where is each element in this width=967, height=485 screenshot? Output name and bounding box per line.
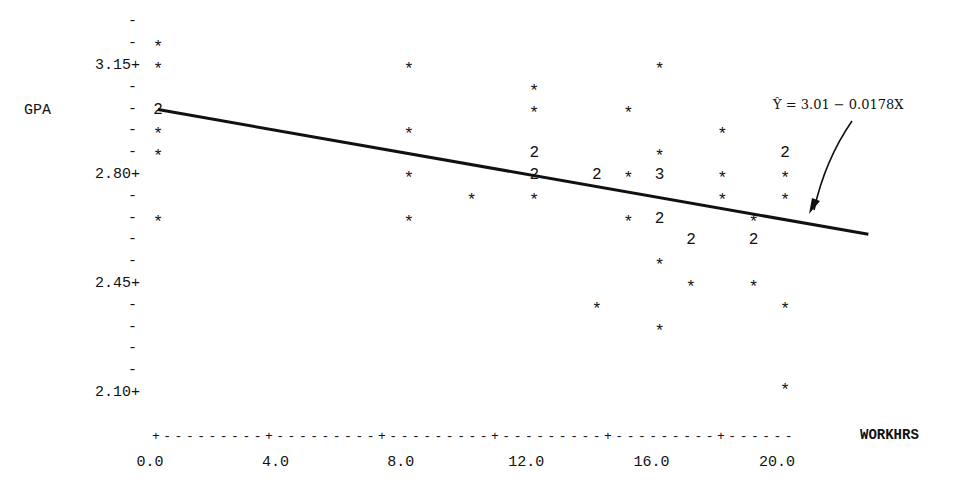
data-point: * <box>654 61 664 78</box>
data-point: * <box>153 148 163 165</box>
data-point-multiple: 2 <box>780 145 790 161</box>
data-point: * <box>623 169 633 186</box>
y-tick-label: 3.15+ <box>95 58 140 73</box>
data-point: * <box>623 213 633 230</box>
data-point: * <box>153 61 163 78</box>
data-point: * <box>686 278 696 295</box>
data-point-multiple: 2 <box>592 167 602 183</box>
y-minor-tick: - <box>128 123 137 138</box>
data-point: * <box>717 191 727 208</box>
data-point: * <box>529 191 539 208</box>
plot-canvas <box>0 0 967 485</box>
y-minor-tick: - <box>128 298 137 313</box>
regression-line <box>158 110 868 235</box>
data-point: * <box>749 213 759 230</box>
data-point-multiple: 2 <box>529 167 539 183</box>
data-point: * <box>654 257 664 274</box>
data-point-multiple: 2 <box>749 232 759 248</box>
data-point: * <box>654 148 664 165</box>
annotation-arrow <box>814 121 852 210</box>
y-minor-tick: - <box>128 320 137 335</box>
y-minor-tick: - <box>128 254 137 269</box>
regression-equation: Ŷ = 3.01 − 0.0178X <box>773 98 904 111</box>
x-tick-label: 0.0 <box>137 455 164 470</box>
y-minor-tick: - <box>128 341 137 356</box>
data-point: * <box>717 126 727 143</box>
data-point: * <box>404 61 414 78</box>
y-axis-title: GPA <box>24 103 51 118</box>
data-point: * <box>153 39 163 56</box>
data-point: * <box>717 169 727 186</box>
data-point: * <box>749 278 759 295</box>
y-minor-tick: - <box>128 211 137 226</box>
data-point: * <box>780 169 790 186</box>
data-point: * <box>529 104 539 121</box>
x-axis-title: WORKHRS <box>860 428 919 442</box>
data-point: * <box>466 191 476 208</box>
data-point: * <box>153 126 163 143</box>
y-minor-tick: - <box>128 232 137 247</box>
data-point: * <box>780 191 790 208</box>
y-tick-label: 2.45+ <box>95 276 140 291</box>
data-point: * <box>592 300 602 317</box>
x-tick-label: 8.0 <box>387 455 414 470</box>
data-point: * <box>780 300 790 317</box>
y-tick-label: 2.10+ <box>95 385 140 400</box>
y-minor-tick: - <box>128 189 137 204</box>
data-point: * <box>623 104 633 121</box>
y-minor-tick: - <box>128 363 137 378</box>
data-point: * <box>404 213 414 230</box>
data-point: * <box>780 381 790 398</box>
x-tick-label: 20.0 <box>759 455 795 470</box>
y-minor-tick: - <box>128 145 137 160</box>
y-minor-tick: - <box>128 102 137 117</box>
data-point: * <box>153 213 163 230</box>
x-tick-label: 4.0 <box>262 455 289 470</box>
data-point: * <box>404 169 414 186</box>
data-point-multiple: 2 <box>529 145 539 161</box>
y-minor-tick: - <box>128 14 137 29</box>
data-point-multiple: 2 <box>655 211 665 227</box>
scatter-plot: GPA --3.15+----2.80+----2.45+----2.10+ +… <box>0 0 967 485</box>
y-tick-label: 2.80+ <box>95 167 140 182</box>
data-point: * <box>404 126 414 143</box>
data-point-multiple: 2 <box>153 102 163 118</box>
y-minor-tick: - <box>128 36 137 51</box>
x-tick-label: 12.0 <box>508 455 544 470</box>
x-tick-label: 16.0 <box>634 455 670 470</box>
data-point-multiple: 2 <box>686 232 696 248</box>
data-point: * <box>654 322 664 339</box>
x-axis-line: +---------+---------+---------+---------… <box>152 430 796 443</box>
arrow-head-icon <box>809 198 820 214</box>
y-minor-tick: - <box>128 80 137 95</box>
data-point-multiple: 3 <box>655 167 665 183</box>
data-point: * <box>529 82 539 99</box>
